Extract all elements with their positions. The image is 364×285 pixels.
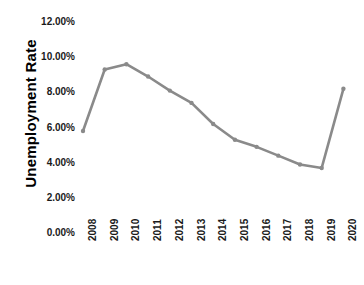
x-axis-tick-label: 2009 bbox=[110, 219, 120, 241]
x-axis-tick-label: 2020 bbox=[348, 219, 358, 241]
x-axis-tick-label: 2016 bbox=[262, 219, 272, 241]
x-axis-tick-label: 2018 bbox=[305, 219, 315, 241]
x-axis-tick-labels: 2008200920102011201220132014201520162017… bbox=[0, 0, 364, 285]
x-axis-tick-label: 2013 bbox=[197, 219, 207, 241]
x-axis-tick-label: 2017 bbox=[283, 219, 293, 241]
x-axis-tick-label: 2015 bbox=[240, 219, 250, 241]
x-axis-tick-label: 2019 bbox=[327, 219, 337, 241]
x-axis-tick-label: 2011 bbox=[153, 219, 163, 241]
x-axis-tick-label: 2014 bbox=[218, 219, 228, 241]
x-axis-tick-label: 2008 bbox=[88, 219, 98, 241]
x-axis-tick-label: 2012 bbox=[175, 219, 185, 241]
x-axis-tick-label: 2010 bbox=[131, 219, 141, 241]
unemployment-rate-line-chart: Unemployment Rate 12.00%10.00%8.00%6.00%… bbox=[0, 0, 364, 285]
